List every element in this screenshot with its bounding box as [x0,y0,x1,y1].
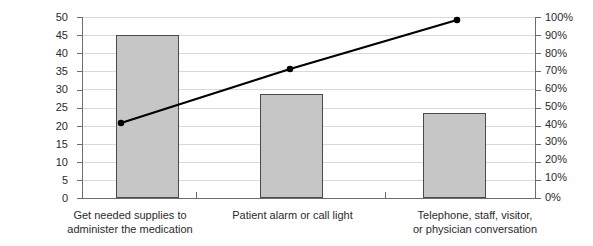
y-right-tick-mark [536,126,541,127]
x-category-label-supplies: Get needed supplies to administer the me… [35,208,225,236]
y-right-tick-label-100: 100% [545,12,573,23]
y-right-tick-mark [536,108,541,109]
y-left-tick-label-50: 50 [40,12,68,23]
y-right-tick-label-50: 50% [545,101,567,112]
x-category-label-telephone: Telephone, staff, visitor, or physician … [380,208,570,236]
y-right-tick-mark [536,17,541,18]
y-left-tick-label-10: 10 [40,157,68,168]
y-right-tick-mark [536,162,541,163]
y-right-tick-mark [536,53,541,54]
y-left-tick-label-45: 45 [40,30,68,41]
y-right-axis-line [535,17,536,199]
y-right-tick-label-80: 80% [545,48,567,59]
y-right-tick-label-0: 0% [545,192,561,203]
y-right-tick-label-70: 70% [545,65,567,76]
y-right-tick-mark [536,35,541,36]
plot-area [83,17,535,198]
x-tick-mark [385,192,386,198]
y-right-tick-mark [536,90,541,91]
y-right-tick-label-10: 10% [545,172,567,183]
x-axis-line [82,198,536,199]
y-left-tick-label-30: 30 [40,84,68,95]
y-right-tick-label-60: 60% [545,83,567,94]
y-right-tick-mark [536,144,541,145]
y-left-tick-label-25: 25 [40,102,68,113]
y-right-tick-label-90: 90% [545,30,567,41]
gridline [83,17,535,18]
y-left-tick-label-35: 35 [40,66,68,77]
y-right-tick-label-20: 20% [545,154,567,165]
x-category-label-patient-alarm: Patient alarm or call light [205,208,380,222]
y-right-tick-label-40: 40% [545,119,567,130]
y-right-tick-mark [536,198,541,199]
y-left-axis-line [82,17,83,199]
y-left-tick-label-5: 5 [40,175,68,186]
x-tick-mark [196,192,197,198]
y-left-tick-label-40: 40 [40,48,68,59]
y-right-tick-label-30: 30% [545,136,567,147]
bar-patient-alarm [260,94,323,198]
y-left-tick-label-15: 15 [40,139,68,150]
bar-supplies [116,35,179,198]
pareto-chart: 50 45 40 35 30 25 20 15 10 5 0 100% 90% … [0,0,593,246]
y-right-tick-mark [536,180,541,181]
y-left-tick-label-20: 20 [40,121,68,132]
y-left-tick-label-0: 0 [40,193,68,204]
y-right-tick-mark [536,71,541,72]
bar-telephone [423,113,486,198]
